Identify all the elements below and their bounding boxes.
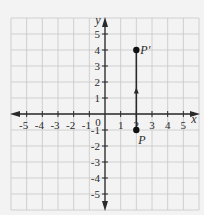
coordinate-plane: -5-4-3-2-11234554321-1-2-3-4-50xy PP' <box>0 0 204 215</box>
y-tick-label: -3 <box>91 156 101 168</box>
point-label: P <box>137 133 146 147</box>
y-axis-up-arrow-icon <box>102 17 108 27</box>
x-tick-label: -3 <box>50 119 60 131</box>
point-label: P' <box>139 43 150 57</box>
x-axis-left-arrow-icon <box>10 111 20 117</box>
translation-segment <box>134 50 139 130</box>
y-tick-label: 5 <box>95 28 101 40</box>
y-tick-label: 2 <box>95 76 101 88</box>
y-tick-label: -2 <box>91 140 100 152</box>
coordinate-plane-svg: -5-4-3-2-11234554321-1-2-3-4-50xy PP' <box>0 0 204 215</box>
x-tick-label: 4 <box>165 119 171 131</box>
origin-label: 0 <box>95 116 101 128</box>
direction-arrow-icon <box>134 88 139 94</box>
y-tick-label: 4 <box>95 44 101 56</box>
y-axis-label: y <box>94 13 101 27</box>
y-tick-label: -5 <box>91 188 101 200</box>
y-tick-label: 3 <box>95 60 101 72</box>
x-tick-label: 3 <box>149 119 155 131</box>
y-tick-label: -4 <box>91 172 101 184</box>
tick-labels: -5-4-3-2-11234554321-1-2-3-4-50xy <box>19 13 197 200</box>
x-tick-label: -5 <box>19 119 29 131</box>
y-tick-label: 1 <box>95 92 101 104</box>
y-axis-down-arrow-icon <box>102 201 108 211</box>
x-tick-label: -2 <box>66 119 75 131</box>
x-tick-label: 5 <box>181 119 187 131</box>
x-tick-label: -1 <box>82 119 91 131</box>
x-axis-label: x <box>190 112 197 126</box>
x-tick-label: -4 <box>35 119 45 131</box>
axes <box>10 17 200 211</box>
x-tick-label: 1 <box>118 119 124 131</box>
point-p-prime <box>133 47 139 53</box>
